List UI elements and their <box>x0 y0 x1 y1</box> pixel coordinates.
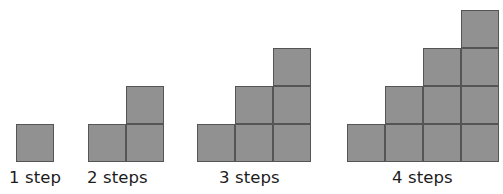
step-square <box>385 86 423 124</box>
step-square <box>461 48 499 86</box>
step-square <box>126 124 164 162</box>
step-square <box>461 124 499 162</box>
step-square <box>423 48 461 86</box>
step-square <box>461 10 499 48</box>
step-square <box>273 48 311 86</box>
step-square <box>385 124 423 162</box>
step-square <box>461 86 499 124</box>
figure-4-steps-label: 4 steps <box>392 168 453 187</box>
figure-1-step-label: 1 step <box>9 168 61 187</box>
figure-2-steps-label: 2 steps <box>87 168 148 187</box>
step-square <box>235 86 273 124</box>
step-square <box>126 86 164 124</box>
step-square <box>235 124 273 162</box>
step-square <box>423 86 461 124</box>
step-square <box>16 124 54 162</box>
step-square <box>197 124 235 162</box>
step-square <box>273 124 311 162</box>
step-square <box>347 124 385 162</box>
step-square <box>88 124 126 162</box>
staircase-diagram: 1 step 2 steps 3 steps 4 steps <box>0 0 503 194</box>
step-square <box>423 124 461 162</box>
figure-3-steps-label: 3 steps <box>219 168 280 187</box>
step-square <box>273 86 311 124</box>
